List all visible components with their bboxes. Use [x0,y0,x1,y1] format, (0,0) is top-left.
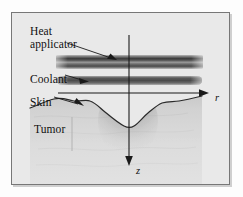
axis-r-arrowhead [199,89,209,97]
axis-label-r: r [215,92,219,103]
axis-label-z: z [136,165,140,176]
axis-r [58,89,209,97]
label-coolant: Coolant [30,73,67,86]
label-heat-applicator-line1: Heat [30,25,77,38]
label-tumor: Tumor [34,123,65,136]
tumor-plume [98,85,158,157]
figure-frame: Heat applicator Coolant Skin Tumor r z [11,12,230,185]
label-heat-applicator-line2: applicator [30,38,77,51]
label-heat-applicator: Heat applicator [30,25,77,50]
label-skin: Skin [30,96,52,109]
figure-root: Heat applicator Coolant Skin Tumor r z [0,0,243,197]
